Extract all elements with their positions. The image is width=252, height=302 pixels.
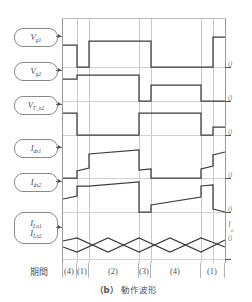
label-vt-n2-text: VT_n2 (28, 101, 45, 110)
figure-waveform-diagram: Vg1 Vg2 VT_n2 Ids1 Ids2 ILo1 ILo2 (0, 0, 252, 302)
period-key-5: (1) (207, 266, 217, 276)
trace-vg1 (63, 37, 225, 67)
label-vg1-text: Vg1 (31, 33, 42, 42)
label-vg2-text: Vg2 (31, 67, 42, 76)
arrow-vg1-icon (58, 34, 61, 38)
label-ids1: Ids1 (14, 139, 58, 158)
zero-label-vt-n2: 0 (228, 128, 232, 137)
signal-label-column: Vg1 Vg2 VT_n2 Ids1 Ids2 ILo1 ILo2 (0, 0, 62, 262)
arrow-vg2-icon (58, 68, 61, 72)
period-key-4: (4) (170, 266, 180, 276)
arrow-ids1-icon (58, 145, 61, 149)
caption-label: （b） (95, 285, 119, 295)
caption-text: 動作波形 (121, 285, 157, 295)
trace-ids2 (63, 182, 225, 212)
label-ilo2-text: ILo2 (30, 229, 42, 238)
arrow-ilo-icon (58, 225, 61, 229)
trace-vg2 (63, 75, 225, 101)
period-row-title: 期間 (30, 265, 48, 278)
label-ids2: Ids2 (14, 173, 58, 192)
label-ids1-text: Ids1 (31, 144, 42, 153)
period-row: 期間 (4) (1) (2) (3) (4) (1) (0, 264, 252, 280)
figure-caption: （b） 動作波形 (0, 283, 252, 295)
period-key-0: (4) (64, 266, 74, 276)
arrow-ids2-icon (58, 179, 61, 183)
label-ilo: ILo1 ILo2 (14, 212, 58, 244)
trace-ids1 (63, 150, 225, 178)
waveform-plot-area (62, 18, 226, 263)
label-vg2: Vg2 (14, 62, 58, 81)
label-ids2-text: Ids2 (31, 178, 42, 187)
zero-label-ids2: 0 (228, 205, 232, 214)
waveform-traces (63, 19, 225, 263)
io-label: Io (228, 220, 233, 231)
tick-ilo (225, 259, 231, 260)
label-ilo1-text: ILo1 (30, 219, 42, 228)
label-vt-n2: VT_n2 (14, 96, 58, 115)
label-vg1: Vg1 (14, 28, 58, 47)
zero-label-vg1: 0 (228, 60, 232, 69)
trace-vt-n2 (63, 113, 225, 135)
period-key-1: (1) (77, 266, 87, 276)
zero-label-ids1: 0 (228, 171, 232, 180)
arrow-vt-n2-icon (58, 102, 61, 106)
zero-label-vg2: 0 (228, 94, 232, 103)
period-key-2: (2) (108, 266, 118, 276)
period-key-3: (3) (139, 266, 149, 276)
zero-label-ilo: 0 (228, 234, 232, 243)
